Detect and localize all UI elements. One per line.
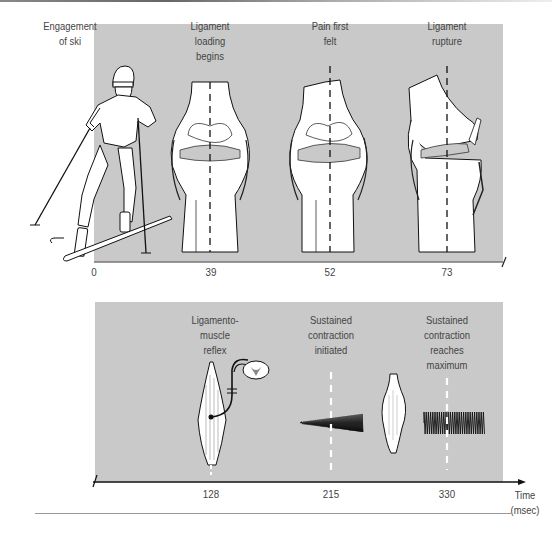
time-tick-215: 215 [314,488,348,500]
event-label-loading: Ligament loading begins [177,19,243,64]
muscle-spinal-cord-reflex-icon [198,359,269,475]
time-tick-39: 39 [194,266,228,278]
bottom-divider [35,513,511,514]
event-label-initiated: Sustained contraction initiated [298,313,364,358]
event-label-reflex: Ligamento- muscle reflex [182,313,248,358]
event-label-pain: Pain first felt [297,19,363,49]
time-tick-330: 330 [430,488,464,500]
event-label-engagement: Engagement of ski [29,19,111,49]
time-tick-128: 128 [194,488,228,500]
time-tick-0: 0 [77,266,111,278]
event-label-rupture: Ligament rupture [414,19,480,49]
contracted-muscle-icon [382,374,406,453]
axis-break-icon [93,475,97,487]
time-tick-52: 52 [313,266,347,278]
axis-arrow-icon [518,479,526,485]
emg-max-icon [424,412,485,434]
time-tick-73: 73 [430,266,464,278]
event-label-maximum: Sustained contraction reaches maximum [414,313,480,373]
